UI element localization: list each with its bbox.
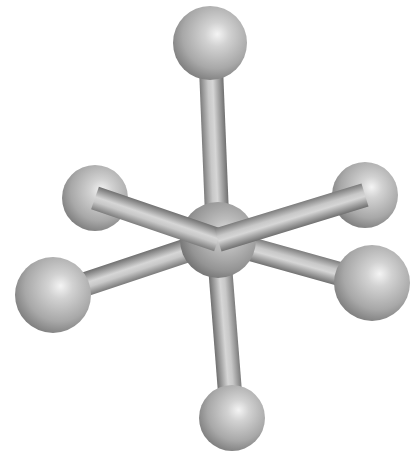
molecule-figure: Octahedral ball-and-stick molecular mode… <box>0 0 413 459</box>
ligand-atom-top <box>173 6 247 80</box>
ligand-atom-bottom <box>199 385 265 451</box>
ligand-atom-lower-right <box>334 245 410 321</box>
octahedral-molecule-model <box>0 0 413 459</box>
ligand-atom-lower-left <box>15 257 91 333</box>
